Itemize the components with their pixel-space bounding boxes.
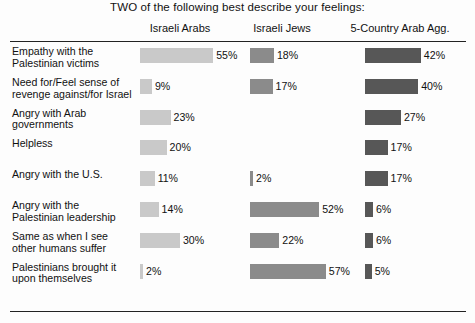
chart-title: TWO of the following best describe your … bbox=[0, 1, 475, 13]
bar bbox=[140, 202, 159, 217]
bar bbox=[250, 79, 273, 94]
bar-value-label: 2% bbox=[256, 172, 271, 184]
bar-value-label: 22% bbox=[282, 234, 303, 246]
bar-value-label: 14% bbox=[162, 203, 183, 215]
header-divider bbox=[10, 41, 466, 42]
chart-row: Helpless20%17% bbox=[0, 136, 475, 167]
chart-row: Need for/Feel sense of revenge against/f… bbox=[0, 75, 475, 106]
row-label: Angry with the U.S. bbox=[12, 169, 132, 181]
chart-row: Empathy with the Palestinian victims55%1… bbox=[0, 44, 475, 75]
chart-row: Same as when I see other humans suffer30… bbox=[0, 229, 475, 260]
bar-value-label: 40% bbox=[421, 80, 442, 92]
bar-value-label: 20% bbox=[170, 141, 191, 153]
bar-value-label: 55% bbox=[216, 49, 237, 61]
bar bbox=[250, 202, 319, 217]
chart-row: Angry with Arab governments23%27% bbox=[0, 106, 475, 137]
bar bbox=[250, 233, 279, 248]
column-header-row: Israeli Arabs Israeli Jews 5-Country Ara… bbox=[0, 22, 475, 38]
bar-value-label: 52% bbox=[322, 203, 343, 215]
bar-value-label: 30% bbox=[183, 234, 204, 246]
bar bbox=[365, 48, 421, 63]
bar-value-label: 17% bbox=[391, 141, 412, 153]
bar bbox=[365, 171, 388, 186]
bar-value-label: 9% bbox=[155, 80, 170, 92]
row-label: Need for/Feel sense of revenge against/f… bbox=[12, 77, 132, 101]
chart-row: Angry with the Palestinian leadership14%… bbox=[0, 198, 475, 229]
bar-value-label: 6% bbox=[376, 234, 391, 246]
bar bbox=[365, 264, 372, 279]
bar-value-label: 2% bbox=[146, 265, 161, 277]
bar-value-label: 11% bbox=[158, 172, 178, 184]
bar bbox=[140, 171, 155, 186]
row-label: Same as when I see other humans suffer bbox=[12, 231, 132, 255]
bar bbox=[365, 140, 388, 155]
footer-divider bbox=[10, 311, 466, 312]
column-header-israeli-jews: Israeli Jews bbox=[234, 22, 330, 34]
bar-value-label: 17% bbox=[391, 172, 412, 184]
column-header-arab-aggregate: 5-Country Arab Agg. bbox=[330, 22, 470, 34]
bar-value-label: 23% bbox=[174, 111, 195, 123]
bar bbox=[140, 110, 171, 125]
chart-row: Palestinians brought it upon themselves2… bbox=[0, 260, 475, 291]
bar bbox=[365, 202, 373, 217]
bar-value-label: 6% bbox=[376, 203, 391, 215]
bar bbox=[140, 140, 167, 155]
bar-value-label: 5% bbox=[375, 265, 390, 277]
column-header-israeli-arabs: Israeli Arabs bbox=[128, 22, 232, 34]
bar-value-label: 27% bbox=[404, 111, 425, 123]
bar bbox=[140, 48, 213, 63]
bar bbox=[140, 79, 152, 94]
bar-value-label: 57% bbox=[329, 265, 350, 277]
row-label: Angry with Arab governments bbox=[12, 108, 132, 132]
bar bbox=[365, 233, 373, 248]
bar bbox=[140, 233, 180, 248]
bar bbox=[365, 79, 418, 94]
bar bbox=[250, 171, 253, 186]
bar-value-label: 18% bbox=[277, 49, 298, 61]
bar bbox=[250, 48, 274, 63]
bar-value-label: 17% bbox=[276, 80, 297, 92]
bar bbox=[140, 264, 143, 279]
bar-value-label: 42% bbox=[424, 49, 445, 61]
chart-row: Angry with the U.S.11%2%17% bbox=[0, 167, 475, 198]
bar bbox=[365, 110, 401, 125]
bar bbox=[250, 264, 326, 279]
row-label: Helpless bbox=[12, 138, 132, 150]
row-label: Empathy with the Palestinian victims bbox=[12, 46, 132, 70]
row-label: Angry with the Palestinian leadership bbox=[12, 200, 132, 224]
row-label: Palestinians brought it upon themselves bbox=[12, 262, 132, 286]
chart-figure: TWO of the following best describe your … bbox=[0, 0, 475, 323]
chart-rows: Empathy with the Palestinian victims55%1… bbox=[0, 44, 475, 290]
